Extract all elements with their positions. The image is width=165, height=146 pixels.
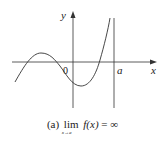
y-axis-label: y	[60, 9, 66, 21]
limit-subscript: x→a⁻	[62, 129, 75, 135]
caption-prefix: (a)	[47, 118, 59, 130]
function-expression: f(x)	[83, 118, 98, 130]
equals-sign: =	[101, 118, 107, 130]
x-axis-label: x	[150, 64, 156, 76]
figure-caption: (a) lim x→a⁻ f(x) = ∞	[0, 118, 165, 130]
y-axis-arrow-icon	[71, 11, 76, 18]
asymptote-label: a	[117, 64, 123, 76]
limit-operator: lim x→a⁻	[64, 118, 79, 130]
origin-label: 0	[63, 65, 68, 76]
limit-result: ∞	[110, 118, 118, 130]
